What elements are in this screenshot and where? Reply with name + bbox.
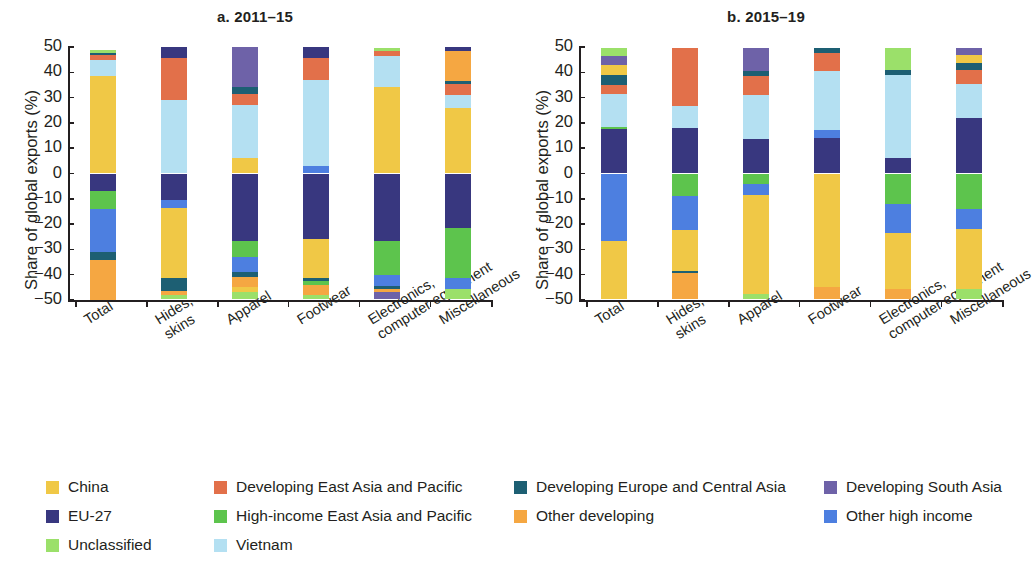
bar-segment: [232, 257, 258, 272]
bar-footwear[interactable]: [814, 47, 840, 300]
legend-item[interactable]: EU-27: [46, 507, 112, 525]
y-tick-label: −50: [517, 289, 573, 308]
bar-miscellaneous[interactable]: [956, 47, 982, 300]
y-tick-label: 0: [517, 163, 573, 182]
bar-segment: [90, 60, 116, 76]
y-tick: [579, 173, 585, 175]
bar-miscellaneous[interactable]: [445, 47, 471, 300]
bar-segment: [445, 108, 471, 174]
y-tick: [579, 274, 585, 276]
bar-segment: [303, 80, 329, 166]
y-tick-label: 20: [517, 112, 573, 131]
bar-segment: [885, 75, 911, 158]
legend-row: ChinaDeveloping East Asia and PacificDev…: [46, 478, 1006, 507]
y-tick: [579, 72, 585, 74]
bar-segment: [672, 230, 698, 270]
y-tick-label: −20: [6, 213, 62, 232]
bar-hides-skins[interactable]: [672, 47, 698, 300]
bar-segment: [445, 278, 471, 288]
bar-segment: [90, 50, 116, 54]
y-tick: [68, 274, 74, 276]
bar-apparel[interactable]: [232, 47, 258, 300]
legend-item[interactable]: Other high income: [824, 507, 973, 525]
legend-item[interactable]: Other developing: [514, 507, 654, 525]
legend-swatch-icon: [214, 539, 227, 552]
bar-segment: [445, 47, 471, 51]
legend-item[interactable]: Developing East Asia and Pacific: [214, 478, 463, 496]
bar-segment: [885, 48, 911, 70]
legend: ChinaDeveloping East Asia and PacificDev…: [46, 478, 1006, 565]
bar-apparel[interactable]: [743, 47, 769, 300]
bar-segment: [161, 58, 187, 100]
bar-segment: [601, 75, 627, 85]
legend-label: EU-27: [68, 507, 112, 525]
bar-footwear[interactable]: [303, 47, 329, 300]
legend-item[interactable]: China: [46, 478, 109, 496]
bar-segment: [232, 47, 258, 87]
x-tick: [430, 301, 432, 307]
y-tick: [579, 46, 585, 48]
legend-swatch-icon: [824, 481, 837, 494]
y-tick: [579, 249, 585, 251]
bar-segment: [445, 174, 471, 228]
bar-segment: [445, 84, 471, 95]
y-tick: [579, 122, 585, 124]
bar-segment: [601, 174, 627, 241]
y-tick-label: −40: [6, 264, 62, 283]
bar-segment: [374, 56, 400, 88]
bar-segment: [232, 277, 258, 287]
legend-item[interactable]: Developing Europe and Central Asia: [514, 478, 786, 496]
y-tick: [68, 147, 74, 149]
bar-segment: [956, 70, 982, 84]
bar-segment: [601, 129, 627, 173]
bar-segment: [885, 70, 911, 75]
bar-segment: [743, 139, 769, 173]
x-tick: [870, 301, 872, 307]
bar-segment: [743, 48, 769, 71]
bar-segment: [814, 138, 840, 173]
bar-segment: [814, 174, 840, 288]
x-tick: [288, 301, 290, 307]
y-tick-label: 0: [6, 163, 62, 182]
x-tick: [217, 301, 219, 307]
legend-label: Developing Europe and Central Asia: [536, 478, 786, 496]
y-tick: [579, 147, 585, 149]
legend-item[interactable]: Developing South Asia: [824, 478, 1002, 496]
y-tick: [579, 198, 585, 200]
panel-b: b. 2015–19 Share of global exports (%) 5…: [511, 0, 1021, 470]
legend-label: Other developing: [536, 507, 654, 525]
y-tick-label: −20: [517, 213, 573, 232]
bar-segment: [601, 48, 627, 56]
y-tick: [68, 97, 74, 99]
bar-segment: [814, 53, 840, 71]
bar-total[interactable]: [601, 47, 627, 300]
bar-electronics-computer-equipment[interactable]: [374, 47, 400, 300]
legend-swatch-icon: [46, 510, 59, 523]
y-tick: [68, 122, 74, 124]
bar-segment: [885, 233, 911, 289]
legend-item[interactable]: High-income East Asia and Pacific: [214, 507, 472, 525]
bar-segment: [601, 56, 627, 65]
bar-total[interactable]: [90, 47, 116, 300]
legend-swatch-icon: [514, 510, 527, 523]
bar-segment: [601, 241, 627, 299]
legend-swatch-icon: [214, 510, 227, 523]
legend-item[interactable]: Vietnam: [214, 536, 293, 554]
legend-label: Developing South Asia: [846, 478, 1002, 496]
bar-segment: [743, 174, 769, 184]
bar-electronics-computer-equipment[interactable]: [885, 47, 911, 300]
y-tick-label: 10: [517, 137, 573, 156]
bar-segment: [161, 100, 187, 173]
bar-segment: [90, 174, 116, 192]
y-tick-label: 30: [6, 87, 62, 106]
bar-segment: [672, 48, 698, 106]
bar-segment: [743, 195, 769, 294]
bar-hides-skins[interactable]: [161, 47, 187, 300]
bar-segment: [90, 209, 116, 252]
bar-segment: [161, 200, 187, 208]
legend-row: UnclassifiedVietnam: [46, 536, 1006, 565]
legend-item[interactable]: Unclassified: [46, 536, 152, 554]
y-tick: [68, 173, 74, 175]
legend-label: High-income East Asia and Pacific: [236, 507, 472, 525]
